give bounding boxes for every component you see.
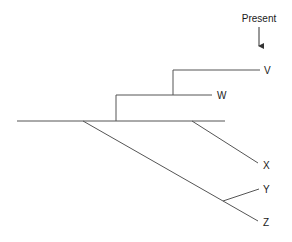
taxon-label-x: X bbox=[263, 160, 270, 171]
branch-y bbox=[223, 189, 259, 201]
present-label: Present bbox=[242, 13, 277, 24]
phylogenetic-tree-diagram: Present W V X Z Y bbox=[0, 0, 292, 242]
taxon-label-z: Z bbox=[263, 217, 269, 228]
branch-z bbox=[83, 121, 258, 221]
taxon-label-v: V bbox=[264, 65, 271, 76]
taxon-label-w: W bbox=[217, 90, 227, 101]
branch-x bbox=[192, 121, 258, 163]
taxon-label-y: Y bbox=[263, 184, 270, 195]
